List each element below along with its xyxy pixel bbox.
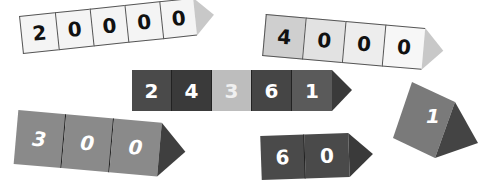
digit-cell: 0: [55, 9, 94, 50]
digit-cell: 1: [292, 70, 332, 111]
digit-cell: 4: [172, 70, 212, 111]
digit-cell: 6: [252, 70, 292, 111]
place-value-strip-24361: 2 4 3 6 1: [132, 70, 352, 111]
place-value-strip-60: 6 0: [260, 132, 373, 180]
arrow-tip-icon: [332, 70, 352, 111]
digit-cell: 0: [90, 5, 129, 46]
digit-cell: 0: [342, 21, 386, 66]
arrow-tip-icon: [157, 123, 188, 179]
arrow-tip-icon: [193, 0, 216, 36]
digit-cell: 0: [302, 18, 346, 63]
single-prism-1: 1: [392, 80, 489, 160]
digit-cell: 2: [19, 12, 59, 54]
digit-cell: 4: [262, 14, 306, 59]
place-value-strip-4000: 4 0 0 0: [262, 14, 445, 72]
arrow-tip-icon: [422, 28, 446, 72]
arrow-tip-icon: [348, 132, 374, 177]
place-value-strip-300: 3 0 0: [14, 110, 188, 179]
digit-cell: 0: [61, 114, 114, 172]
digit-cell: 0: [159, 0, 197, 39]
digit-cell: 6: [260, 134, 306, 180]
digit-cell: 0: [304, 133, 350, 179]
digit-cell: 3: [14, 110, 67, 168]
digit-cell: 0: [109, 118, 162, 176]
digit-cell: 2: [132, 70, 172, 111]
prism-digit: 1: [418, 104, 448, 128]
place-value-strip-20000: 2 0 0 0 0: [19, 0, 216, 54]
digit-cell: 3: [212, 70, 252, 111]
digit-cell: 0: [382, 25, 426, 70]
digit-cell: 0: [124, 1, 163, 42]
